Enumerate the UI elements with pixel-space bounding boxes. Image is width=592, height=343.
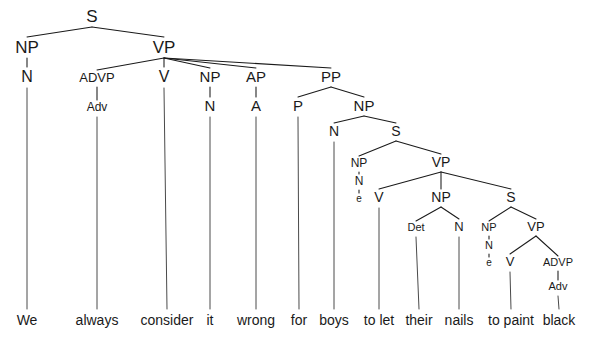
leaf-word-w5: for (291, 312, 308, 328)
tree-node-det-n23: Det (407, 221, 424, 233)
tree-node-vp-n26: VP (527, 219, 544, 234)
leaf-word-w9: nails (445, 312, 474, 328)
tree-node-np-n25: NP (481, 221, 496, 233)
tree-node-p-n12: P (293, 97, 303, 114)
leaf-stems-group (27, 88, 559, 309)
tree-branch-n15-n17 (396, 141, 441, 154)
tree-node-e-n19: e (356, 193, 362, 204)
tree-node-n-n18: N (355, 174, 364, 188)
tree-branch-n26-n30 (536, 236, 558, 256)
tree-node-s-n22: S (506, 189, 515, 205)
leaf-stem-w8 (416, 237, 419, 309)
tree-node-pp-n8: PP (321, 68, 341, 85)
leaf-word-w4: wrong (236, 312, 275, 328)
leaf-word-w6: boys (319, 312, 349, 328)
leaf-word-w0: We (17, 312, 38, 328)
tree-node-advp-n30: ADVP (543, 256, 573, 268)
node-labels-group: SNPVPNADVPVNPAPPPAdvNAPNPNSNPVPNeVNPSDet… (15, 7, 573, 292)
tree-node-n-n24: N (454, 219, 463, 234)
tree-node-advp-n4: ADVP (79, 70, 114, 85)
tree-branch-n8-n12 (298, 87, 331, 97)
leaf-word-w7: to let (364, 312, 394, 328)
tree-branch-n0-n2 (92, 27, 164, 37)
tree-branch-n17-n20 (379, 172, 441, 189)
tree-branch-n21-n23 (416, 207, 441, 221)
syntax-tree-figure: SNPVPNADVPVNPAPPPAdvNAPNPNSNPVPNeVNPSDet… (0, 0, 592, 343)
tree-node-np-n6: NP (200, 68, 221, 85)
tree-node-vp-n2: VP (153, 38, 176, 57)
tree-node-s-n0: S (86, 7, 97, 26)
tree-branch-n22-n26 (511, 207, 536, 219)
tree-node-a-n11: A (251, 97, 261, 114)
tree-branch-n13-n14 (334, 116, 364, 123)
leaf-stem-w2 (164, 88, 167, 309)
leaf-word-w2: consider (141, 312, 194, 328)
tree-node-n-n3: N (21, 68, 33, 85)
tree-node-v-n20: V (374, 189, 384, 205)
leaf-stem-w5 (298, 117, 299, 309)
leaf-word-w10: to paint (488, 312, 534, 328)
leaf-stem-w11 (558, 296, 559, 309)
tree-node-e-n28: e (486, 257, 492, 268)
leaf-stem-w10 (510, 272, 511, 309)
tree-node-v-n5: V (159, 68, 170, 85)
tree-branch-n2-n4 (97, 58, 164, 70)
tree-branch-n21-n24 (441, 207, 459, 219)
tree-branch-n15-n16 (359, 141, 396, 156)
tree-node-v-n29: V (506, 254, 515, 269)
tree-branch-n22-n25 (489, 207, 511, 221)
tree-node-ap-n7: AP (246, 68, 266, 85)
leaf-word-w8: their (405, 312, 433, 328)
tree-node-np-n13: NP (354, 97, 375, 114)
tree-branch-n17-n22 (441, 172, 511, 189)
tree-node-adv-n9: Adv (87, 100, 108, 114)
tree-node-vp-n17: VP (432, 154, 451, 170)
tree-branch-n13-n15 (364, 116, 396, 123)
tree-node-adv-n31: Adv (549, 280, 568, 292)
tree-branch-n26-n29 (510, 236, 536, 254)
tree-node-np-n1: NP (15, 38, 39, 57)
leaf-word-w1: always (76, 312, 119, 328)
tree-node-s-n15: S (391, 123, 400, 139)
branch-lines-group (27, 27, 558, 280)
tree-node-np-n21: NP (431, 189, 450, 205)
syntax-tree-canvas: SNPVPNADVPVNPAPPPAdvNAPNPNSNPVPNeVNPSDet… (0, 0, 592, 343)
tree-branch-n8-n13 (331, 87, 364, 97)
tree-node-n-n10: N (205, 97, 216, 114)
leaf-word-w11: black (543, 312, 577, 328)
leaf-word-w3: it (207, 312, 214, 328)
tree-node-np-n16: NP (351, 156, 368, 170)
tree-node-n-n27: N (485, 239, 493, 251)
tree-branch-n0-n1 (27, 27, 92, 37)
leaf-words-group: Wealwaysconsideritwrongforboysto letthei… (17, 312, 577, 328)
tree-node-n-n14: N (329, 123, 339, 139)
